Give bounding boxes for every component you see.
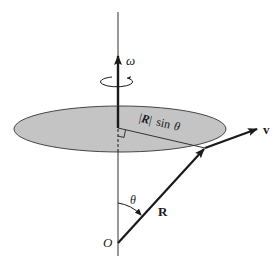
- rotation-diagram: ω |R|sinθ v θ R O: [0, 0, 276, 273]
- origin-label: O: [103, 235, 113, 250]
- theta-label: θ: [130, 193, 136, 207]
- rotation-direction-icon: [101, 76, 133, 87]
- position-vector-label: R: [158, 204, 168, 219]
- omega-label: ω: [126, 53, 135, 68]
- velocity-label: v: [263, 122, 270, 137]
